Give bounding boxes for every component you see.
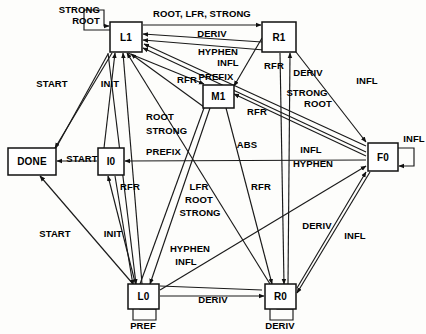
edge-label-root-12: ROOT bbox=[304, 98, 332, 109]
edge-label-pref-36: PREF bbox=[130, 320, 156, 331]
edge-l0-l1 bbox=[123, 53, 142, 284]
state-node-r0[interactable]: R0 bbox=[265, 284, 296, 309]
edge-label-root-16: ROOT bbox=[146, 111, 174, 122]
edge-r0-l0 bbox=[160, 286, 262, 290]
edge-r1-r0 bbox=[280, 53, 284, 284]
edge-label-deriv-37: DERIV bbox=[265, 320, 295, 331]
edge-label-infl-5: INFL bbox=[217, 57, 239, 68]
state-node-r1[interactable]: R1 bbox=[262, 22, 296, 52]
edge-label-prefix-18: PREFIX bbox=[146, 146, 181, 157]
edge-label-infl-32: INFL bbox=[175, 256, 197, 267]
edge-label-deriv-35: DERIV bbox=[198, 294, 228, 305]
edge-label-infl-10: INFL bbox=[356, 75, 378, 86]
edge-label-rfr-7: RFR bbox=[177, 74, 197, 85]
node-label-i0: I0 bbox=[107, 156, 116, 167]
edge-label-prefix-6: PREFIX bbox=[199, 71, 234, 82]
nodes-layer: L1R1M1DONEI0F0L0R0 bbox=[8, 22, 398, 309]
edge-label-strong-0: STRONG bbox=[59, 4, 100, 15]
edge-label-start-14: START bbox=[36, 78, 68, 89]
edge-label-abs-19: ABS bbox=[237, 139, 257, 150]
state-node-m1[interactable]: M1 bbox=[203, 85, 234, 108]
edge-label-root-26: ROOT bbox=[185, 194, 213, 205]
edge-label-start-29: START bbox=[39, 228, 71, 239]
edge-f0-l1-b bbox=[143, 48, 366, 152]
edge-labels-layer: STRONGROOTROOT, LFR, STRONGDERIVHYPHENIN… bbox=[36, 4, 425, 331]
edge-label-deriv-33: DERIV bbox=[302, 220, 332, 231]
edge-label-root-1: ROOT bbox=[72, 15, 100, 26]
edge-label-rfr-24: RFR bbox=[120, 181, 140, 192]
edge-label-deriv-3: DERIV bbox=[197, 28, 227, 39]
state-node-done[interactable]: DONE bbox=[8, 148, 56, 175]
edge-label-root-lfr-strong-2: ROOT, LFR, STRONG bbox=[153, 8, 251, 19]
node-label-done: DONE bbox=[17, 156, 47, 167]
edge-done-l1-aux bbox=[56, 54, 108, 148]
edge-label-start-22: START bbox=[66, 153, 98, 164]
node-label-f0: F0 bbox=[377, 152, 389, 163]
edge-label-rfr-13: RFR bbox=[247, 106, 267, 117]
edge-label-init-30: INIT bbox=[104, 228, 122, 239]
edge-label-rfr-28: RFR bbox=[251, 181, 271, 192]
state-node-i0[interactable]: I0 bbox=[98, 148, 124, 175]
state-node-l0[interactable]: L0 bbox=[128, 284, 159, 309]
state-transition-diagram: L1R1M1DONEI0F0L0R0 STRONGROOTROOT, LFR, … bbox=[0, 0, 426, 334]
node-label-r1: R1 bbox=[272, 32, 285, 43]
edge-label-infl-20: INFL bbox=[300, 144, 322, 155]
state-diagram-container: L1R1M1DONEI0F0L0R0 STRONGROOTROOT, LFR, … bbox=[0, 0, 426, 334]
edge-label-lfr-25: LFR bbox=[190, 181, 209, 192]
edge-label-strong-27: STRONG bbox=[179, 207, 220, 218]
edge-label-strong-11: STRONG bbox=[286, 87, 327, 98]
edge-label-init-15: INIT bbox=[101, 78, 119, 89]
state-node-l1[interactable]: L1 bbox=[110, 22, 142, 52]
node-label-m1: M1 bbox=[211, 91, 226, 102]
node-label-r0: R0 bbox=[274, 291, 287, 302]
edge-label-hyphen-21: HYPHEN bbox=[293, 158, 333, 169]
node-label-l1: L1 bbox=[120, 32, 132, 43]
self-loop-f0-infl bbox=[398, 148, 414, 166]
edge-label-infl-23: INFL bbox=[403, 133, 425, 144]
state-node-f0[interactable]: F0 bbox=[368, 143, 398, 171]
edge-label-infl-34: INFL bbox=[344, 230, 366, 241]
edge-m1-r0 bbox=[226, 108, 272, 284]
edge-label-hyphen-4: HYPHEN bbox=[198, 46, 238, 57]
edge-label-rfr-8: RFR bbox=[264, 60, 284, 71]
edge-label-strong-17: STRONG bbox=[146, 125, 187, 136]
edge-label-deriv-9: DERIV bbox=[293, 67, 323, 78]
edge-label-hyphen-31: HYPHEN bbox=[170, 243, 210, 254]
node-label-l0: L0 bbox=[137, 291, 149, 302]
